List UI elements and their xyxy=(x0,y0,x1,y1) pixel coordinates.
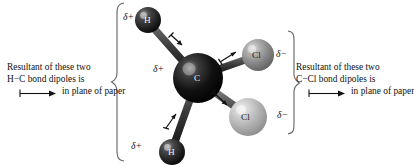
annotation-right: Resultant of these two C−Cl bond dipoles… xyxy=(296,61,414,98)
annotation-right-line3: in plane of paper xyxy=(351,86,414,96)
annotation-right-line3-row: in plane of paper xyxy=(296,85,414,97)
atom-cl-bot xyxy=(229,98,267,136)
charge-label-cl-bot: δ− xyxy=(277,109,288,120)
annotation-left-line3: in plane of paper xyxy=(62,86,125,96)
atom-h-top xyxy=(135,7,161,33)
charge-label-h-top: δ+ xyxy=(123,11,134,22)
annotation-left-line3-row: in plane of paper xyxy=(7,85,125,97)
resultant-dipole-arrow-right xyxy=(307,88,347,97)
annotation-left-line2: H−C bond dipoles is xyxy=(7,73,125,85)
atom-carbon xyxy=(173,53,223,103)
atom-cl-top xyxy=(242,39,274,71)
dipole-arrow-h-bot xyxy=(163,114,176,129)
charge-label-cl-top: δ− xyxy=(276,48,287,59)
resultant-dipole-arrow-left xyxy=(18,88,58,97)
annotation-right-line1: Resultant of these two xyxy=(296,61,414,73)
charge-label-h-bot: δ+ xyxy=(131,140,142,151)
annotation-left-line1: Resultant of these two xyxy=(7,61,125,73)
charge-label-carbon: δ+ xyxy=(153,63,164,74)
annotation-right-line2: C−Cl bond dipoles is xyxy=(296,73,414,85)
atom-h-bot xyxy=(159,139,185,165)
annotation-left: Resultant of these two H−C bond dipoles … xyxy=(7,61,125,98)
